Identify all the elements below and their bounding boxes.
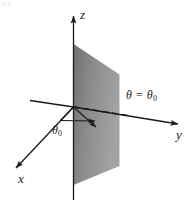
angle-leg [61, 107, 74, 121]
radial-arrow [61, 121, 95, 122]
equation-subscript: 0 [153, 94, 158, 103]
y-axis-label: y [176, 128, 182, 141]
plane-equation-label: θ = θ0 [126, 89, 158, 103]
negative-y-axis [30, 101, 74, 108]
angle-subscript: 0 [58, 129, 62, 138]
equation-theta-symbol: θ [126, 88, 132, 102]
theta-plane [74, 44, 120, 185]
x-axis-label: x [18, 172, 24, 185]
z-axis-label: z [80, 8, 85, 21]
figure-container: (c) [0, 0, 191, 204]
coordinate-diagram-svg [0, 0, 191, 204]
equation-operator: = [136, 88, 143, 102]
angle-label: θ0 [52, 124, 62, 138]
